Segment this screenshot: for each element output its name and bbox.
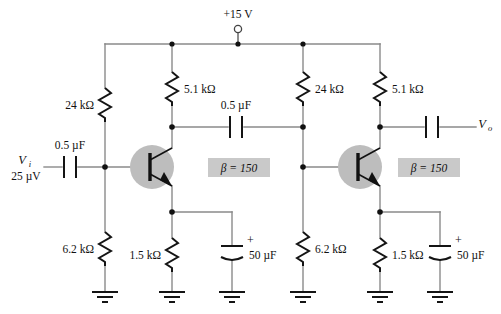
resistor-rc2-label: 5.1 kΩ — [392, 83, 424, 95]
node-dot-q1-emitter — [169, 209, 175, 215]
resistor-r3-label: 24 kΩ — [315, 83, 344, 95]
capacitor-ce2-polarity: + — [455, 233, 462, 247]
node-dot-q2-base-top — [300, 124, 306, 130]
resistor-re2-1k5: 1.5 kΩ — [374, 238, 424, 272]
capacitor-ce1-label: 50 µF — [249, 249, 276, 262]
transistor-q1 — [130, 145, 174, 189]
ground-re1 — [159, 292, 185, 302]
transistor-q2 — [338, 145, 382, 189]
capacitor-interstage-coupling: 0.5 µF — [221, 99, 251, 138]
ground-r2 — [92, 292, 118, 302]
input-amplitude-label: 25 µV — [11, 170, 41, 183]
beta-label-q2: β = 150 — [398, 158, 460, 177]
beta-label-q1: β = 150 — [208, 158, 270, 177]
node-dot-q2-collector — [377, 124, 383, 130]
resistor-r4-6k2: 6.2 kΩ — [297, 232, 347, 266]
capacitor-bypass-ce2: + 50 µF — [429, 233, 484, 262]
node-dot-q1-collector — [169, 124, 175, 130]
node-dot-rail-rc1 — [169, 41, 174, 46]
resistor-r2-label: 6.2 kΩ — [62, 243, 94, 255]
circuit-schematic: +15 V 24 kΩ 6.2 kΩ 5.1 kΩ 1.5 kΩ 24 kΩ 6… — [0, 0, 501, 314]
resistor-rc2-5k1: 5.1 kΩ — [374, 72, 424, 106]
capacitor-output-coupling — [426, 116, 438, 138]
resistor-rc1-5k1: 5.1 kΩ — [166, 72, 216, 106]
capacitor-ce2-label: 50 µF — [457, 249, 484, 262]
ground-r4 — [290, 292, 316, 302]
resistor-re1-label: 1.5 kΩ — [129, 249, 161, 261]
node-dot-rail-supply — [235, 41, 240, 46]
capacitor-bypass-ce1: + 50 µF — [221, 233, 276, 262]
node-dot-rail-r3 — [300, 41, 305, 46]
beta-q1-text: β = 150 — [220, 162, 258, 175]
circuit-diagram-figure: +15 V 24 kΩ 6.2 kΩ 5.1 kΩ 1.5 kΩ 24 kΩ 6… — [0, 0, 501, 314]
resistor-re1-1k5: 1.5 kΩ — [129, 238, 178, 272]
capacitor-input-label: 0.5 µF — [55, 139, 85, 152]
resistor-r1-24k: 24 kΩ — [65, 88, 111, 122]
capacitor-interstage-label: 0.5 µF — [221, 99, 251, 112]
node-dot-q2-emitter — [377, 209, 383, 215]
ground-ce2 — [427, 292, 453, 302]
supply-voltage-label: +15 V — [224, 8, 254, 20]
capacitor-input-coupling: 0.5 µF — [55, 139, 85, 178]
input-voltage-subscript: i — [29, 159, 32, 169]
resistor-r4-label: 6.2 kΩ — [315, 243, 347, 255]
output-label-group: V o — [478, 117, 492, 133]
supply-terminal-icon — [234, 25, 241, 32]
resistor-r1-label: 24 kΩ — [65, 99, 94, 111]
node-dot-q1-base — [102, 164, 108, 170]
resistor-rc1-label: 5.1 kΩ — [184, 83, 216, 95]
ground-symbols — [92, 292, 453, 302]
resistor-re2-label: 1.5 kΩ — [392, 249, 424, 261]
ground-ce1 — [219, 292, 245, 302]
input-label-group: V i 25 µV — [11, 153, 41, 183]
capacitor-ce1-polarity: + — [247, 233, 254, 247]
output-voltage-subscript: o — [488, 123, 492, 133]
ground-re2 — [367, 292, 393, 302]
input-voltage-symbol: V — [18, 153, 27, 167]
resistor-r3-24k: 24 kΩ — [297, 72, 344, 106]
output-voltage-symbol: V — [478, 117, 487, 131]
beta-q2-text: β = 150 — [410, 162, 448, 175]
node-dot-q2-base — [300, 164, 306, 170]
resistor-r2-6k2: 6.2 kΩ — [62, 232, 111, 266]
